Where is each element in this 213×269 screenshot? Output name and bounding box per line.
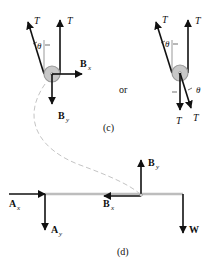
label-Ay: A	[51, 224, 59, 235]
label-theta: θ	[37, 41, 42, 51]
point-B	[140, 194, 143, 197]
caption-c: (c)	[103, 122, 114, 134]
label-By-sub: y	[155, 163, 160, 171]
tension-angled-arrow	[28, 22, 44, 74]
label-Bx-sub: x	[87, 64, 92, 72]
label-Ax-sub: x	[16, 204, 21, 212]
right-pulley-fbd: T T θ θ T T	[156, 14, 202, 126]
label-Ax: A	[9, 198, 17, 209]
label-T: T	[67, 15, 74, 26]
label-Bx-sub: x	[110, 204, 115, 212]
dashed-connector-curve	[34, 84, 140, 194]
left-pulley-fbd: T T θ B x B y	[28, 15, 92, 124]
free-body-diagram: T T θ B x B y or T T θ θ T T (c)	[0, 0, 213, 269]
label-Bx: B	[80, 58, 87, 69]
label-Ay-sub: y	[58, 230, 63, 238]
label-T: T	[176, 115, 183, 126]
label-theta: θ	[165, 39, 170, 49]
tension-angled-top-arrow	[156, 22, 172, 73]
label-T: T	[193, 112, 200, 123]
caption-d: (d)	[117, 246, 129, 258]
beam-fbd: A x A y B y B x W	[9, 157, 199, 238]
label-By-sub: y	[65, 116, 70, 124]
label-By: B	[148, 157, 155, 168]
or-connector: or	[119, 84, 128, 95]
label-T: T	[195, 15, 202, 26]
label-By: B	[58, 110, 65, 121]
label-W: W	[189, 224, 199, 235]
label-T: T	[34, 15, 41, 26]
label-Bx: B	[103, 198, 110, 209]
label-theta: θ	[196, 85, 201, 95]
label-T: T	[162, 14, 169, 25]
angle-tick	[188, 88, 192, 90]
